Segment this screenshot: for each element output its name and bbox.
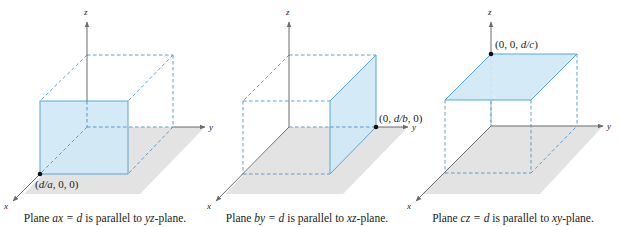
y-axis-label: y — [606, 121, 611, 131]
xy-floor-shading — [422, 126, 603, 194]
z-axis-label: z — [487, 7, 492, 17]
intercept-point — [374, 125, 379, 130]
panel-xy-plane: z y x (0, 0, d/c) — [406, 7, 611, 211]
plane-ax-eq-d — [40, 101, 128, 174]
intercept-label: (0, d/b, 0) — [379, 112, 423, 125]
z-axis-label: z — [83, 7, 88, 17]
diagram-canvas: z y x (d/a, 0, 0) z y x — [0, 0, 620, 227]
z-axis-label: z — [285, 7, 290, 17]
panel-yz-plane: z y x (d/a, 0, 0) — [3, 7, 213, 211]
plane-cz-eq-d — [445, 54, 577, 100]
intercept-label: (d/a, 0, 0) — [35, 178, 79, 191]
intercept-point — [489, 52, 494, 57]
panel-xz-plane: z y x (0, d/b, 0) — [206, 7, 423, 211]
x-axis-label: x — [3, 201, 8, 211]
x-axis-label: x — [406, 201, 411, 211]
caption-panel-2: Plane by = d is parallel to xz-plane. — [222, 212, 392, 226]
y-axis-label: y — [208, 122, 213, 132]
xy-floor-shading — [225, 127, 408, 194]
x-axis-label: x — [206, 201, 211, 211]
caption-panel-1: Plane ax = d is parallel to yz-plane. — [20, 212, 190, 226]
intercept-point — [38, 172, 43, 177]
figure-three-coordinate-planes: z y x (d/a, 0, 0) z y x — [0, 0, 620, 227]
intercept-label: (0, 0, d/c) — [495, 38, 538, 51]
caption-panel-3: Plane cz = d is parallel to xy-plane. — [428, 212, 598, 226]
